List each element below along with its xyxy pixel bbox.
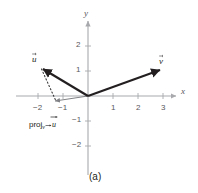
x-tick-label--1: −1 (58, 104, 67, 112)
x-tick-label-2: 2 (136, 104, 140, 112)
y-axis-label: y (84, 9, 88, 18)
x-tick-label-3: 3 (161, 104, 165, 112)
x-axis-label: x (181, 87, 185, 96)
projection-vector (55, 96, 88, 101)
x-tick-label--2: −2 (33, 104, 42, 112)
y-axis (85, 21, 91, 175)
figure-caption: (a) (89, 172, 101, 182)
vector-projection-figure: x y −2 −1 1 2 3 2 1 −1 −2 u v projv u ( (0, 0, 198, 193)
projection-label-main: proj (29, 120, 42, 129)
v-overbar-arrow-icon (159, 54, 163, 58)
plot-canvas (0, 0, 198, 193)
vector-v-label: v (159, 57, 163, 66)
y-tick-label--1: −1 (72, 116, 81, 124)
proj-vector-arrow-icon (50, 115, 59, 124)
projection-dropline (42, 69, 56, 100)
y-tick-label-2: 2 (76, 41, 80, 49)
u-overbar-arrow-icon (32, 52, 37, 56)
vector-u (43, 69, 88, 96)
vector-v (88, 70, 160, 96)
x-tick-label-1: 1 (111, 104, 115, 112)
projection-label: projv u (29, 115, 59, 130)
y-tick-label-1: 1 (76, 66, 80, 74)
y-tick-label--2: −2 (72, 141, 81, 149)
vector-u-label: u (32, 55, 37, 64)
